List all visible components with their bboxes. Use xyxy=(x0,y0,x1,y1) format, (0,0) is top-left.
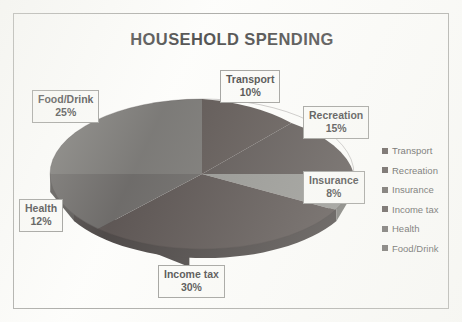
callout-transport-value: 10% xyxy=(226,86,274,99)
legend-swatch-icon xyxy=(382,148,388,154)
legend-item-insurance[interactable]: Insurance xyxy=(382,180,462,200)
callout-recreation-label: Recreation xyxy=(309,109,363,121)
legend-label: Health xyxy=(392,223,419,234)
callout-insurance: Insurance 8% xyxy=(303,171,365,204)
legend-label: Insurance xyxy=(392,184,434,195)
callout-health-value: 12% xyxy=(25,215,57,228)
callout-food-drink-value: 25% xyxy=(38,106,93,119)
callout-food-drink: Food/Drink 25% xyxy=(32,90,99,123)
callout-insurance-value: 8% xyxy=(309,187,359,200)
callout-transport: Transport 10% xyxy=(220,70,280,103)
legend-swatch-icon xyxy=(382,245,388,251)
legend-item-income-tax[interactable]: Income tax xyxy=(382,200,462,220)
callout-food-drink-label: Food/Drink xyxy=(38,93,93,105)
legend-swatch-icon xyxy=(382,167,388,173)
legend-swatch-icon xyxy=(382,187,388,193)
legend: Transport Recreation Insurance Income ta… xyxy=(382,141,462,258)
legend-item-recreation[interactable]: Recreation xyxy=(382,161,462,181)
legend-label: Food/Drink xyxy=(392,243,438,254)
legend-swatch-icon xyxy=(382,206,388,212)
legend-item-health[interactable]: Health xyxy=(382,219,462,239)
chart-frame: HOUSEHOLD SPENDING xyxy=(13,13,449,309)
legend-item-transport[interactable]: Transport xyxy=(382,141,462,161)
chart-page: HOUSEHOLD SPENDING xyxy=(0,0,462,322)
callout-transport-label: Transport xyxy=(226,73,274,85)
callout-health-label: Health xyxy=(25,202,57,214)
callout-recreation: Recreation 15% xyxy=(303,106,369,139)
legend-swatch-icon xyxy=(382,226,388,232)
callout-health: Health 12% xyxy=(19,199,63,232)
callout-income-tax: Income tax 30% xyxy=(158,265,225,298)
callout-income-tax-label: Income tax xyxy=(164,268,219,280)
callout-recreation-value: 15% xyxy=(309,122,363,135)
legend-item-food-drink[interactable]: Food/Drink xyxy=(382,239,462,259)
legend-label: Income tax xyxy=(392,204,438,215)
legend-label: Recreation xyxy=(392,165,438,176)
legend-label: Transport xyxy=(392,145,432,156)
callout-income-tax-value: 30% xyxy=(164,281,219,294)
callout-insurance-label: Insurance xyxy=(309,174,359,186)
